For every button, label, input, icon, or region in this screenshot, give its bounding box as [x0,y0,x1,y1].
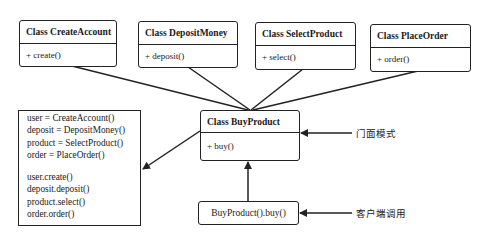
client-call-label: 客户端调用 [356,206,406,220]
class-method: + deposit() [139,45,237,66]
code-spacer [27,161,140,171]
class-place-order: Class PlaceOrder + order() [370,24,471,72]
code-line: order = PlaceOrder() [27,149,140,161]
class-method: + select() [256,46,355,68]
class-title: Class BuyProduct [201,111,299,133]
client-call-box: BuyProduct().buy() [198,201,299,225]
code-line: product = SelectProduct() [27,137,140,149]
class-select-product: Class SelectProduct + select() [255,22,356,70]
class-create-account: Class CreateAccount + create() [19,20,117,67]
class-method: + buy() [201,133,299,159]
code-line: user = CreateAccount() [27,112,140,124]
code-line: deposit.deposit() [27,183,140,195]
class-title: Class SelectProduct [256,23,355,46]
class-title: Class PlaceOrder [371,25,470,48]
class-method: + order() [371,48,470,70]
class-deposit-money: Class DepositMoney + deposit() [138,21,238,68]
code-line: order.order() [27,208,140,220]
code-line: deposit = DepositMoney() [27,124,140,136]
code-line: product.select() [27,196,140,208]
class-method: + create() [20,44,116,65]
class-title: Class DepositMoney [139,22,237,45]
code-line: user.create() [27,171,140,183]
class-buy-product-facade: Class BuyProduct + buy() [200,110,300,161]
class-title: Class CreateAccount [20,21,116,44]
facade-pattern-label: 门面模式 [356,126,396,140]
facade-implementation-code: user = CreateAccount() deposit = Deposit… [18,110,141,226]
